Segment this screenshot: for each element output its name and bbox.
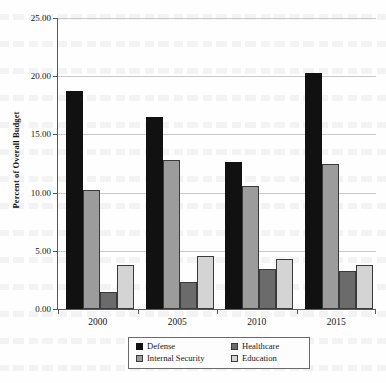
legend-swatch-icon: [136, 343, 143, 350]
x-axis-tick: [375, 309, 376, 314]
y-axis-tick-label: 10.00: [31, 188, 51, 198]
y-axis-tick: [53, 18, 58, 19]
legend-item-defense[interactable]: Defense: [136, 341, 231, 352]
chart-legend: DefenseHealthcareInternal SecurityEducat…: [128, 337, 310, 369]
legend-label: Defense: [147, 341, 175, 352]
bar-healthcare-2015: [339, 271, 356, 309]
bar-healthcare-2005: [180, 282, 197, 309]
bar-education-2015: [356, 265, 373, 309]
bar-defense-2005: [146, 117, 163, 309]
bar-education-2010: [276, 259, 293, 309]
y-axis-tick-label: 25.00: [31, 13, 51, 23]
x-axis-tick: [297, 309, 298, 314]
x-axis-tick: [138, 309, 139, 314]
bar-healthcare-2000: [100, 292, 117, 309]
legend-label: Education: [242, 353, 277, 364]
x-axis-tick-label: 2005: [168, 317, 187, 327]
legend-label: Internal Security: [147, 353, 205, 364]
y-axis-title-text: Percent of Overall Budget: [10, 111, 20, 208]
legend-swatch-icon: [231, 343, 238, 350]
bar-chart-figure: Percent of Overall Budget 0.005.0010.001…: [0, 0, 386, 383]
bar-group: [146, 18, 214, 309]
bar-internal-security-2005: [163, 160, 180, 309]
bar-defense-2000: [66, 91, 83, 309]
y-axis-tick: [53, 193, 58, 194]
bar-internal-security-2015: [322, 164, 339, 310]
x-axis-tick: [58, 309, 59, 314]
y-axis-tick-label: 20.00: [31, 71, 51, 81]
bar-education-2000: [117, 265, 134, 309]
x-axis-tick-label: 2010: [247, 317, 266, 327]
legend-item-education[interactable]: Education: [231, 353, 303, 364]
y-axis-title: Percent of Overall Budget: [4, 0, 26, 320]
x-axis-tick-label: 2000: [88, 317, 107, 327]
y-axis-tick: [53, 134, 58, 135]
y-axis-tick-label: 0.00: [35, 304, 51, 314]
bar-group: [66, 18, 134, 309]
legend-swatch-icon: [231, 355, 238, 362]
legend-label: Healthcare: [242, 341, 279, 352]
plot-area: 0.005.0010.0015.0020.0025.00 20002005201…: [57, 18, 376, 309]
legend-swatch-icon: [136, 355, 143, 362]
x-axis-tick: [217, 309, 218, 314]
legend-item-internal-security[interactable]: Internal Security: [136, 353, 231, 364]
y-axis-tick: [53, 251, 58, 252]
y-axis-tick-label: 15.00: [31, 129, 51, 139]
bar-defense-2015: [305, 73, 322, 309]
bar-healthcare-2010: [259, 269, 276, 309]
y-axis-tick: [53, 76, 58, 77]
bar-internal-security-2010: [242, 186, 259, 309]
y-axis-tick-label: 5.00: [35, 246, 51, 256]
bar-group: [305, 18, 373, 309]
bar-group: [225, 18, 293, 309]
legend-item-healthcare[interactable]: Healthcare: [231, 341, 303, 352]
bar-education-2005: [197, 256, 214, 309]
bar-internal-security-2000: [83, 190, 100, 309]
bar-defense-2010: [225, 162, 242, 309]
x-axis-tick-label: 2015: [327, 317, 346, 327]
